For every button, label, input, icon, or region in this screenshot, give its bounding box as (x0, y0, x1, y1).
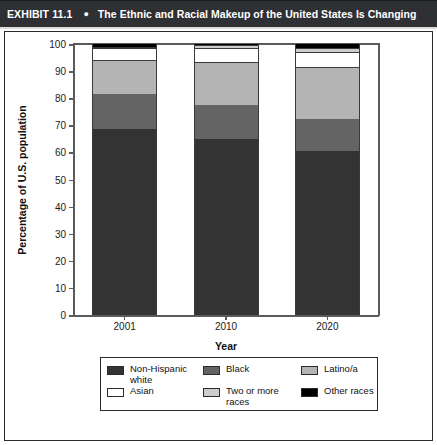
bar-segment[interactable] (194, 105, 259, 139)
y-axis-tick-mark (69, 288, 74, 290)
bar-segment[interactable] (92, 60, 157, 94)
legend-label: Other races (324, 386, 374, 397)
legend-swatch (203, 388, 220, 397)
legend-item[interactable]: Non-Hispanic white (107, 364, 203, 386)
legend-item[interactable]: Black (203, 364, 301, 386)
y-axis-tick-label: 10 (36, 282, 66, 293)
y-axis-tick-label: 20 (36, 255, 66, 266)
x-axis-tick-label: 2001 (114, 321, 136, 332)
x-axis-tick-mark (124, 315, 126, 320)
y-axis-tick-label: 50 (36, 174, 66, 185)
legend-label: Black (226, 364, 249, 375)
x-axis-tick-mark (225, 315, 227, 320)
exhibit-number: EXHIBIT 11.1 (7, 8, 72, 20)
y-axis-tick-label: 0 (36, 310, 66, 321)
plot-right-border (378, 43, 380, 316)
bar-segment[interactable] (295, 52, 360, 67)
x-axis-title: Year (74, 340, 378, 352)
y-axis-tick-mark (69, 125, 74, 127)
header-divider (0, 27, 437, 29)
x-axis-tick-label: 2010 (215, 321, 237, 332)
y-axis-tick-label: 80 (36, 93, 66, 104)
bullet-dot-icon: ● (83, 10, 88, 19)
legend-label: Non-Hispanic white (130, 364, 187, 385)
bar-segment[interactable] (295, 44, 360, 48)
legend-item[interactable]: Other races (301, 386, 379, 408)
bar-segment[interactable] (92, 47, 157, 48)
exhibit-header: EXHIBIT 11.1 ● The Ethnic and Racial Mak… (0, 0, 437, 27)
x-axis-tick-mark (327, 315, 329, 320)
y-axis-tick-mark (69, 315, 74, 317)
bar-segment[interactable] (92, 44, 157, 47)
legend-swatch (203, 366, 220, 375)
y-axis-tick-label: 100 (36, 39, 66, 50)
y-axis-tick-mark (69, 152, 74, 154)
bar-segment[interactable] (92, 94, 157, 129)
y-axis-tick-mark (69, 71, 74, 73)
y-axis-tick-mark (69, 44, 74, 46)
legend-label: Asian (130, 386, 154, 397)
legend-item[interactable]: Two or more races (203, 386, 301, 408)
legend-swatch (107, 388, 124, 397)
bar-segment[interactable] (194, 139, 259, 315)
bar-segment[interactable] (194, 62, 259, 105)
plot-area: 0102030405060708090100 (74, 44, 378, 315)
bar-segment[interactable] (194, 48, 259, 62)
bar-stack[interactable] (92, 44, 157, 315)
y-axis-tick-mark (69, 234, 74, 236)
y-axis-tick-label: 70 (36, 120, 66, 131)
y-axis-tick-label: 60 (36, 147, 66, 158)
bar-segment[interactable] (92, 129, 157, 315)
bar-segment[interactable] (295, 151, 360, 315)
legend-label: Latino/a (324, 364, 358, 375)
exhibit-figure: EXHIBIT 11.1 ● The Ethnic and Racial Mak… (0, 0, 437, 445)
bar-segment[interactable] (194, 45, 259, 48)
y-axis-title: Percentage of U.S. population (16, 105, 28, 254)
legend-swatch (107, 366, 124, 375)
y-axis-tick-mark (69, 98, 74, 100)
legend-label: Two or more races (226, 386, 279, 407)
chart-legend: Non-Hispanic whiteBlackLatino/aAsianTwo … (100, 357, 378, 411)
bar-segment[interactable] (295, 119, 360, 152)
x-axis-tick-label: 2020 (316, 321, 338, 332)
y-axis-tick-label: 90 (36, 66, 66, 77)
y-axis-tick-mark (69, 207, 74, 209)
y-axis-tick-label: 30 (36, 228, 66, 239)
bar-segment[interactable] (194, 44, 259, 45)
legend-swatch (301, 366, 318, 375)
exhibit-title: The Ethnic and Racial Makeup of the Unit… (98, 8, 417, 20)
y-axis-tick-mark (69, 180, 74, 182)
legend-item[interactable]: Asian (107, 386, 203, 408)
bar-stack[interactable] (194, 44, 259, 315)
legend-swatch (301, 388, 318, 397)
bar-stack[interactable] (295, 44, 360, 315)
bar-segment[interactable] (295, 48, 360, 52)
bar-segment[interactable] (295, 67, 360, 118)
y-axis-tick-mark (69, 261, 74, 263)
y-axis-tick-label: 40 (36, 201, 66, 212)
legend-item[interactable]: Latino/a (301, 364, 379, 386)
bar-segment[interactable] (92, 48, 157, 60)
